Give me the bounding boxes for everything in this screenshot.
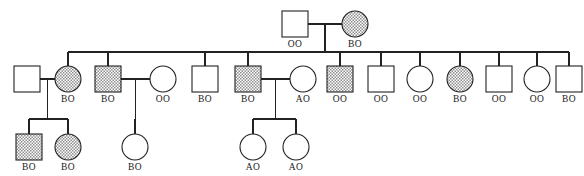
genotype-label: BO: [348, 40, 362, 50]
genotype-label: BO: [128, 163, 142, 173]
female-symbol-affected[interactable]: [55, 66, 81, 92]
male-symbol-unaffected[interactable]: [368, 66, 394, 92]
pedigree-chart: OOBOBOBOOOBOBOAOOOOOOOBOOOOOBOBOBOBOAOAO: [0, 0, 584, 176]
genotype-label: BO: [61, 163, 75, 173]
female-symbol-unaffected[interactable]: [290, 66, 316, 92]
male-symbol-affected[interactable]: [327, 66, 353, 92]
genotype-label: OO: [333, 95, 347, 105]
female-symbol-unaffected[interactable]: [150, 66, 176, 92]
genotype-label: OO: [288, 40, 302, 50]
female-symbol-unaffected[interactable]: [122, 134, 148, 160]
pedigree-diagram-canvas: [0, 0, 584, 176]
female-symbol-unaffected[interactable]: [283, 134, 309, 160]
genotype-label: OO: [492, 95, 506, 105]
male-symbol-affected[interactable]: [16, 134, 42, 160]
female-symbol-affected[interactable]: [55, 134, 81, 160]
male-symbol-unaffected[interactable]: [486, 66, 512, 92]
male-symbol-affected[interactable]: [95, 66, 121, 92]
genotype-label: BO: [101, 95, 115, 105]
genotype-label: BO: [198, 95, 212, 105]
genotype-label: OO: [374, 95, 388, 105]
genotype-label: AO: [246, 163, 260, 173]
male-symbol-affected[interactable]: [235, 66, 261, 92]
male-symbol-unaffected[interactable]: [192, 66, 218, 92]
genotype-label: BO: [241, 95, 255, 105]
individual-symbols: [14, 11, 582, 160]
male-symbol-unaffected[interactable]: [282, 11, 308, 37]
genotype-label: BO: [562, 95, 576, 105]
genotype-label: OO: [156, 95, 170, 105]
genotype-label: BO: [453, 95, 467, 105]
genotype-label: OO: [413, 95, 427, 105]
genotype-label: AO: [296, 95, 310, 105]
female-symbol-unaffected[interactable]: [407, 66, 433, 92]
genotype-label: BO: [61, 95, 75, 105]
female-symbol-affected[interactable]: [447, 66, 473, 92]
female-symbol-unaffected[interactable]: [524, 66, 550, 92]
female-symbol-unaffected[interactable]: [240, 134, 266, 160]
male-symbol-unaffected[interactable]: [556, 66, 582, 92]
genotype-label: BO: [22, 163, 36, 173]
genotype-label: OO: [530, 95, 544, 105]
female-symbol-affected[interactable]: [342, 11, 368, 37]
male-symbol-unaffected[interactable]: [14, 66, 40, 92]
genotype-label: AO: [289, 163, 303, 173]
